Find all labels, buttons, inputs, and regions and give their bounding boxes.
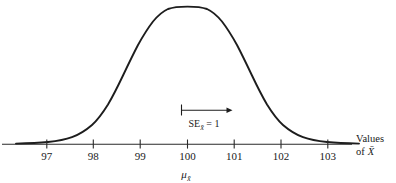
se-arrow-head — [227, 107, 233, 113]
tick-label-99: 99 — [135, 150, 147, 162]
axis-caption-of: of — [356, 146, 365, 157]
tick-label-97: 97 — [41, 150, 53, 162]
tick-label-98: 98 — [88, 150, 100, 162]
se-prefix: SE — [189, 118, 201, 129]
se-label: SEx̄ = 1 — [189, 118, 220, 132]
normal-curve-path — [16, 7, 359, 144]
axis-caption-group: Values ofX̄ — [356, 133, 384, 157]
mean-label: μx̄ — [180, 168, 191, 183]
se-annotation-group: SEx̄ = 1 — [182, 105, 233, 132]
mu-subscript: x̄ — [186, 174, 191, 183]
tick-label-101: 101 — [226, 150, 243, 162]
axis-caption-line2: ofX̄ — [356, 146, 375, 157]
distribution-chart-svg: 97 98 99 100 101 102 103 μx̄ SEx̄ = 1 Va… — [0, 0, 396, 183]
axis-caption-xbar-symbol: X̄ — [367, 146, 375, 157]
tick-label-102: 102 — [273, 150, 290, 162]
mean-label-group: μx̄ — [180, 168, 191, 183]
x-axis-tick-labels: 97 98 99 100 101 102 103 — [41, 150, 336, 162]
tick-label-100: 100 — [179, 150, 196, 162]
se-suffix: = 1 — [204, 118, 220, 129]
mu-symbol: μ — [180, 168, 187, 180]
normal-distribution-figure: 97 98 99 100 101 102 103 μx̄ SEx̄ = 1 Va… — [0, 0, 396, 183]
tick-label-103: 103 — [320, 150, 337, 162]
axis-caption-line1: Values — [356, 133, 384, 144]
